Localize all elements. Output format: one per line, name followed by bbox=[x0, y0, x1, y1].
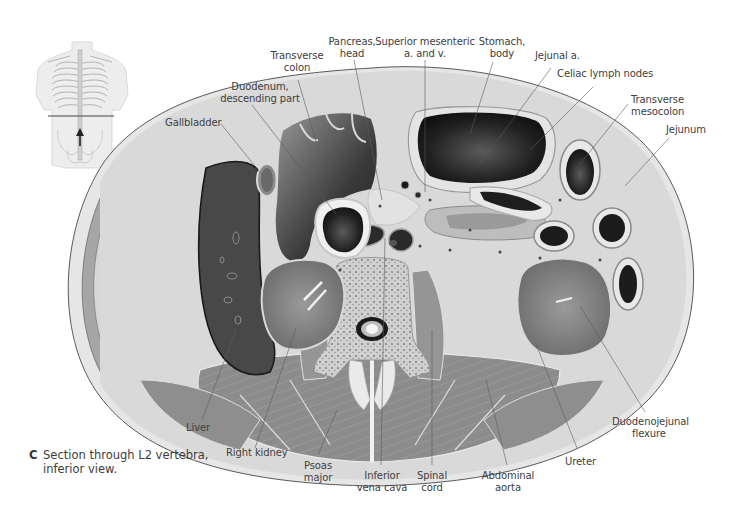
label-celiac-lymph-nodes: Celiac lymph nodes bbox=[557, 68, 653, 80]
label-ureter: Ureter bbox=[565, 456, 596, 468]
label-duodenojejunal-flexure: Duodenojejunal flexure bbox=[612, 416, 686, 440]
label-stomach-body: Stomach, body bbox=[472, 36, 532, 60]
caption-text: Section through L2 vertebra, inferior vi… bbox=[43, 448, 209, 476]
label-inferior-vena-cava: Inferior vena cava bbox=[352, 470, 412, 494]
label-liver: Liver bbox=[186, 422, 210, 434]
label-spinal-cord: Spinal cord bbox=[414, 470, 450, 494]
label-gallbladder: Gallbladder bbox=[165, 117, 222, 129]
label-jejunum: Jejunum bbox=[666, 124, 706, 136]
label-abdominal-aorta: Abdominal aorta bbox=[478, 470, 538, 494]
sma-vessel bbox=[401, 181, 409, 189]
aorta-shape bbox=[389, 229, 413, 251]
label-pancreas-head: Pancreas, head bbox=[322, 36, 382, 60]
label-psoas-major: Psoas major bbox=[298, 460, 338, 484]
label-duodenum-descending: Duodenum, descending part bbox=[200, 81, 320, 105]
anatomy-figure: Gallbladder Duodenum, descending part Tr… bbox=[0, 0, 745, 523]
label-right-kidney: Right kidney bbox=[226, 447, 288, 459]
spinal-cord-shape bbox=[366, 324, 378, 334]
label-jejunal-artery: Jejunal a. bbox=[535, 50, 580, 62]
caption-letter: C bbox=[29, 448, 37, 462]
label-superior-mesenteric: Superior mesenteric a. and v. bbox=[375, 36, 475, 60]
left-kidney-shape bbox=[517, 259, 611, 356]
smv-vessel bbox=[415, 192, 421, 198]
label-transverse-mesocolon: Transverse mesocolon bbox=[631, 94, 684, 118]
